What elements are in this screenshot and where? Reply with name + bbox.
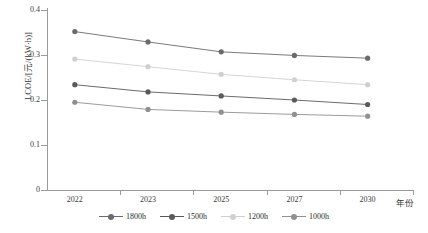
series-1200h bbox=[72, 56, 370, 87]
legend-marker-icon bbox=[282, 213, 306, 221]
data-point bbox=[365, 56, 370, 61]
data-point bbox=[365, 102, 370, 107]
data-point bbox=[219, 72, 224, 77]
data-point bbox=[365, 82, 370, 87]
legend-label: 1200h bbox=[248, 212, 268, 221]
data-point bbox=[72, 82, 77, 87]
plot-series-area bbox=[0, 0, 428, 233]
legend-label: 1800h bbox=[126, 212, 146, 221]
data-point bbox=[292, 77, 297, 82]
legend-marker-icon bbox=[221, 213, 245, 221]
series-1800h bbox=[72, 29, 370, 61]
data-point bbox=[145, 64, 150, 69]
legend-label: 1500h bbox=[187, 212, 207, 221]
legend-marker-icon bbox=[160, 213, 184, 221]
data-point bbox=[292, 112, 297, 117]
data-point bbox=[72, 29, 77, 34]
data-point bbox=[365, 114, 370, 119]
legend-marker-icon bbox=[99, 213, 123, 221]
legend-label: 1000h bbox=[309, 212, 329, 221]
data-point bbox=[219, 93, 224, 98]
legend-item-1200h[interactable]: 1200h bbox=[221, 212, 268, 221]
data-point bbox=[72, 100, 77, 105]
data-point bbox=[292, 53, 297, 58]
data-point bbox=[145, 89, 150, 94]
legend-item-1000h[interactable]: 1000h bbox=[282, 212, 329, 221]
series-1000h bbox=[72, 100, 370, 119]
legend-item-1500h[interactable]: 1500h bbox=[160, 212, 207, 221]
data-point bbox=[292, 97, 297, 102]
chart-legend: 1800h1500h1200h1000h bbox=[0, 212, 428, 221]
data-point bbox=[72, 56, 77, 61]
data-point bbox=[219, 110, 224, 115]
series-1500h bbox=[72, 82, 370, 107]
data-point bbox=[219, 49, 224, 54]
lcoe-line-chart: LCOE/[元/(kW·h)] 年份 00.10.20.30.4 2022202… bbox=[0, 0, 428, 233]
legend-item-1800h[interactable]: 1800h bbox=[99, 212, 146, 221]
data-point bbox=[145, 39, 150, 44]
data-point bbox=[145, 107, 150, 112]
